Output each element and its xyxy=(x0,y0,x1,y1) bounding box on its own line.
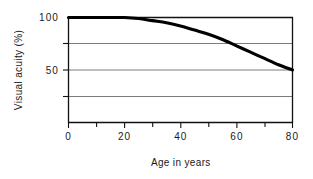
chart-background xyxy=(0,0,313,179)
y-axis-title: Visual acuity (%) xyxy=(13,30,24,110)
x-tick-label-40: 40 xyxy=(174,131,187,142)
x-tick-label-0: 0 xyxy=(65,131,72,142)
chart-canvas: 100 50 0 20 40 60 80 Age in years Visual… xyxy=(0,0,313,179)
x-tick-label-80: 80 xyxy=(286,131,299,142)
x-tick-label-60: 60 xyxy=(230,131,243,142)
x-tick-label-20: 20 xyxy=(118,131,131,142)
visual-acuity-chart: 100 50 0 20 40 60 80 Age in years Visual… xyxy=(0,0,313,179)
x-axis-title: Age in years xyxy=(151,157,211,168)
y-tick-label-50: 50 xyxy=(46,65,59,76)
y-tick-label-100: 100 xyxy=(39,12,59,23)
